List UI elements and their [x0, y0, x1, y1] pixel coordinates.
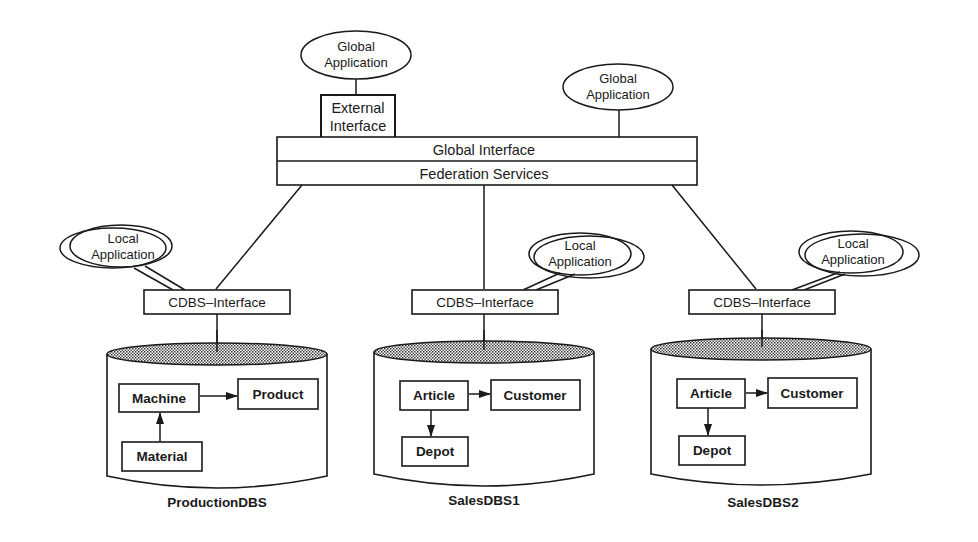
database-production-name: ProductionDBS — [167, 495, 267, 510]
connector-federation-cdbs-1 — [216, 185, 302, 289]
cdbs-interface-1: CDBS–Interface — [144, 290, 290, 314]
external-interface: External Interface — [321, 95, 395, 138]
database-production: Machine Product Material — [107, 330, 327, 488]
federated-database-architecture-diagram: Global Application External Interface Gl… — [0, 0, 978, 542]
global-application-2-line1: Global — [599, 71, 637, 86]
database-sales1-name: SalesDBS1 — [448, 493, 520, 508]
local-application-3: Local Application — [799, 231, 919, 276]
entity-machine-label: Machine — [132, 391, 187, 406]
global-application-1: Global Application — [301, 31, 411, 79]
global-application-2-line2: Application — [586, 87, 650, 102]
external-interface-line1: External — [331, 100, 384, 116]
external-interface-line2: Interface — [330, 118, 386, 134]
entity-material-label: Material — [136, 449, 187, 464]
database-sales2: Article Customer Depot — [651, 330, 871, 485]
database-sales2-name: SalesDBS2 — [727, 495, 798, 510]
entity-product-label: Product — [252, 387, 304, 402]
local-application-1-line1: Local — [107, 231, 138, 246]
cdbs-interface-1-label: CDBS–Interface — [168, 295, 266, 310]
global-application-1-line2: Application — [324, 55, 388, 70]
local-application-2: Local Application — [529, 233, 644, 278]
global-application-1-line1: Global — [337, 39, 375, 54]
local-application-2-line2: Application — [548, 254, 612, 269]
component-sales1: Local Application CDBS–Interface Article… — [374, 233, 644, 508]
local-application-2-line1: Local — [564, 238, 595, 253]
local-application-3-line1: Local — [837, 236, 868, 251]
entity-customer-label: Customer — [780, 386, 844, 401]
local-link-3a — [792, 272, 840, 290]
local-application-3-line2: Application — [821, 252, 885, 267]
cdbs-interface-3: CDBS–Interface — [689, 290, 835, 314]
entity-article-label: Article — [690, 386, 733, 401]
entity-depot-label: Depot — [416, 444, 455, 459]
global-layer: Global Application External Interface Gl… — [216, 31, 756, 289]
global-application-2: Global Application — [563, 64, 673, 110]
global-interface-label: Global Interface — [433, 142, 535, 158]
federation-layer-bar: Global Interface Federation Services — [277, 137, 697, 185]
component-sales2: Local Application CDBS–Interface Article… — [651, 231, 919, 510]
component-production: Local Application CDBS–Interface Machine… — [60, 225, 327, 510]
database-sales1: Article Customer Depot — [374, 330, 594, 486]
federation-services-label: Federation Services — [420, 166, 549, 182]
entity-customer-label: Customer — [503, 388, 567, 403]
local-application-1-line2: Application — [91, 247, 155, 262]
cdbs-interface-2: CDBS–Interface — [412, 290, 558, 314]
entity-article-label: Article — [413, 388, 456, 403]
cdbs-interface-3-label: CDBS–Interface — [713, 295, 811, 310]
connector-federation-cdbs-3 — [672, 185, 756, 289]
cdbs-interface-2-label: CDBS–Interface — [436, 295, 534, 310]
entity-depot-label: Depot — [693, 443, 732, 458]
local-link-3b — [804, 274, 845, 290]
local-application-1: Local Application — [60, 225, 172, 268]
